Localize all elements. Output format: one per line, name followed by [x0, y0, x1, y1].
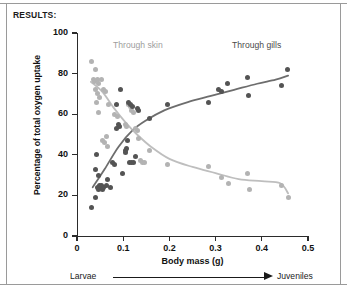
- life-stage-progression: Larvae Juveniles: [70, 270, 320, 284]
- scatter-plot: 020406080100 00.10.20.30.40.5 Percentage…: [0, 0, 347, 294]
- data-point: [219, 175, 224, 180]
- data-point: [96, 110, 101, 115]
- x-tick-label: 0.1: [108, 243, 138, 253]
- x-tick: [261, 236, 262, 241]
- y-tick: [72, 73, 77, 74]
- data-point: [135, 128, 140, 133]
- data-point: [93, 195, 98, 200]
- data-point: [245, 75, 250, 80]
- x-tick: [215, 236, 216, 241]
- y-tick: [72, 32, 77, 33]
- data-point: [105, 177, 110, 182]
- data-point: [115, 114, 120, 119]
- data-point: [245, 171, 250, 176]
- data-point: [226, 181, 231, 186]
- y-axis-label: Percentage of total oxygen uptake: [32, 25, 42, 225]
- y-tick-label: 60: [42, 108, 68, 118]
- progression-start-label: Larvae: [70, 271, 96, 281]
- x-tick: [307, 236, 308, 241]
- data-point: [286, 195, 291, 200]
- x-tick-label: 0.2: [154, 243, 184, 253]
- data-point: [117, 124, 122, 129]
- series-label-through-skin: Through skin: [113, 40, 163, 50]
- progression-arrow-line: [113, 277, 266, 278]
- data-point: [99, 77, 104, 82]
- y-tick-label: 40: [42, 149, 68, 159]
- x-tick-label: 0.4: [247, 243, 277, 253]
- progression-end-label: Juveniles: [277, 271, 313, 281]
- x-tick-label: 0.5: [293, 243, 323, 253]
- y-tick-label: 0: [42, 230, 68, 240]
- data-point: [114, 102, 119, 107]
- x-tick: [169, 236, 170, 241]
- right-arrow-icon: [264, 272, 273, 280]
- results-figure: RESULTS: 020406080100 00.10.20.30.40.5 P…: [0, 0, 347, 294]
- y-tick: [72, 195, 77, 196]
- x-tick-label: 0.3: [201, 243, 231, 253]
- x-axis-label: Body mass (g): [77, 256, 308, 266]
- y-tick-label: 20: [42, 189, 68, 199]
- y-tick: [72, 154, 77, 155]
- data-point: [96, 173, 101, 178]
- y-tick: [72, 114, 77, 115]
- data-point: [94, 100, 99, 105]
- data-point: [165, 102, 170, 107]
- data-point: [279, 83, 284, 88]
- trend-curve: [91, 82, 288, 194]
- x-tick-label: 0: [62, 243, 92, 253]
- data-point: [93, 67, 98, 72]
- data-point: [206, 100, 211, 105]
- data-point: [225, 81, 230, 86]
- data-point: [120, 171, 125, 176]
- data-point: [279, 183, 284, 188]
- data-point: [108, 185, 113, 190]
- x-tick: [76, 236, 77, 241]
- x-tick: [123, 236, 124, 241]
- data-point: [104, 134, 109, 139]
- data-point: [89, 205, 94, 210]
- data-point: [147, 116, 152, 121]
- y-tick-label: 80: [42, 68, 68, 78]
- data-point: [106, 102, 111, 107]
- y-tick-label: 100: [42, 27, 68, 37]
- series-label-through-gills: Through gills: [232, 40, 281, 50]
